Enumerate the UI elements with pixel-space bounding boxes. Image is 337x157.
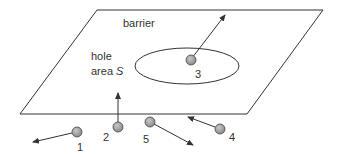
particle-3: 3 (186, 15, 225, 80)
particle-5: 5 (143, 117, 193, 145)
barrier-plane (20, 10, 323, 114)
svg-text:1: 1 (77, 141, 83, 153)
svg-text:3: 3 (195, 68, 201, 80)
svg-text:4: 4 (229, 131, 235, 143)
barrier-label: barrier (123, 17, 155, 29)
svg-text:5: 5 (143, 133, 149, 145)
hole-ellipse (135, 48, 239, 84)
diagram-canvas: barrier hole area S 3 1 2 5 4 (0, 0, 337, 157)
svg-text:2: 2 (103, 131, 109, 143)
area-label: area S (91, 65, 124, 77)
particle-4: 4 (188, 117, 235, 143)
particle-1: 1 (33, 127, 83, 153)
particle-2: 2 (103, 93, 123, 143)
hole-label: hole (91, 50, 112, 62)
